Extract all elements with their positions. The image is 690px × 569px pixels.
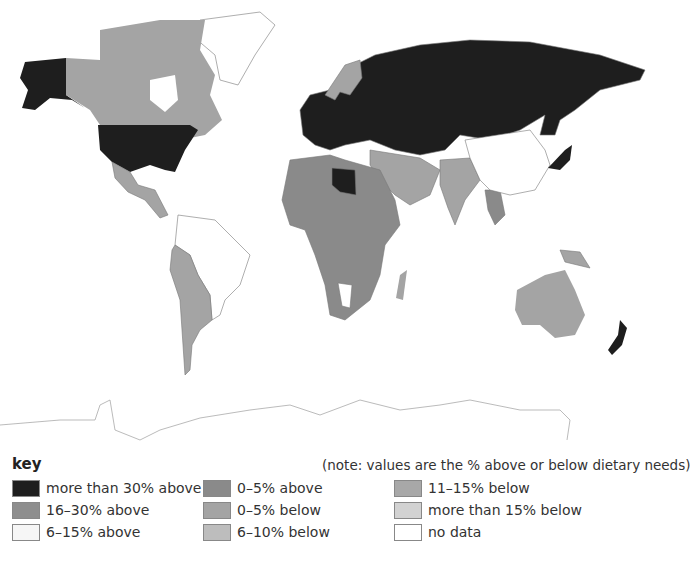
region-china xyxy=(465,130,550,195)
region-japan xyxy=(548,145,572,170)
swatch xyxy=(394,502,422,519)
swatch xyxy=(203,524,231,541)
legend-item-more-than-30-above: more than 30% above xyxy=(12,478,201,498)
legend-item-16-30-above: 16–30% above xyxy=(12,500,149,520)
legend-item-6-10-below: 6–10% below xyxy=(203,522,330,542)
legend-item-11-15-below: 11–15% below xyxy=(394,478,530,498)
legend-note: (note: values are the % above or below d… xyxy=(322,457,690,473)
region-canada xyxy=(66,20,222,140)
swatch xyxy=(12,524,40,541)
legend-item-more-than-15-below: more than 15% below xyxy=(394,500,582,520)
region-australia xyxy=(515,270,585,338)
legend-item-0-5-below: 0–5% below xyxy=(203,500,321,520)
region-madagascar xyxy=(396,270,407,300)
world-map xyxy=(0,0,667,450)
legend-item-6-15-above: 6–15% above xyxy=(12,522,140,542)
region-mexico xyxy=(112,162,168,218)
swatch xyxy=(12,480,40,497)
region-new-guinea xyxy=(560,250,590,268)
swatch xyxy=(203,502,231,519)
swatch xyxy=(203,480,231,497)
region-europe-russia xyxy=(300,40,645,155)
region-se-asia xyxy=(485,190,505,225)
region-new-zealand xyxy=(608,320,627,355)
legend-item-no-data: no data xyxy=(394,522,481,542)
region-india xyxy=(440,158,480,225)
swatch xyxy=(394,480,422,497)
legend-item-0-5-above: 0–5% above xyxy=(203,478,323,498)
legend-title: key xyxy=(12,455,42,473)
region-antarctica xyxy=(0,400,570,440)
swatch xyxy=(394,524,422,541)
swatch xyxy=(12,502,40,519)
